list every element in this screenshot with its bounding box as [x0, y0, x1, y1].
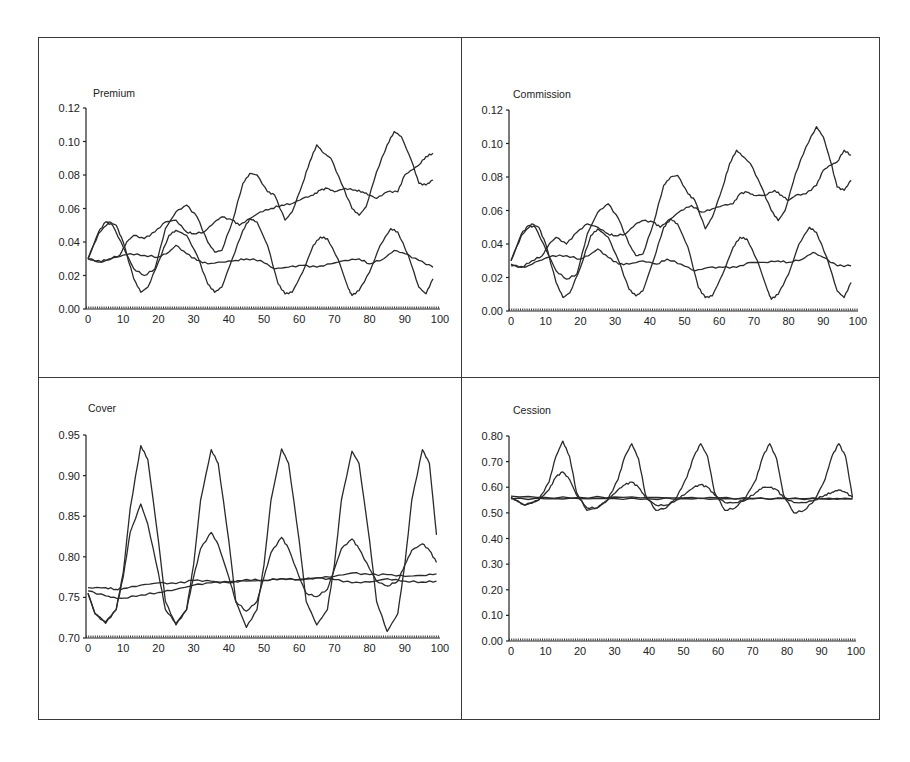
y-tick-label: 0.60 — [482, 481, 503, 493]
series-line-1 — [88, 446, 437, 632]
panel-title: Commission — [513, 88, 571, 100]
x-tick-label: 20 — [574, 315, 586, 327]
series-line-3 — [511, 150, 851, 267]
series-line-4 — [511, 249, 851, 271]
x-tick-label: 100 — [431, 642, 449, 654]
x-tick-label: 80 — [363, 313, 375, 325]
x-tick-label: 50 — [677, 645, 689, 657]
series-line-3 — [88, 153, 433, 262]
series-line-2 — [511, 472, 853, 509]
y-tick-label: 0.10 — [59, 136, 80, 148]
y-tick-label: 0.75 — [59, 591, 80, 603]
panel-premium: Premium 0.000.020.040.060.080.100.120102… — [59, 87, 450, 325]
x-tick-label: 60 — [293, 313, 305, 325]
x-tick-label: 50 — [258, 642, 270, 654]
x-tick-label: 70 — [328, 313, 340, 325]
x-tick-label: 0 — [508, 645, 514, 657]
panel-cover: Cover 0.700.750.800.850.900.950102030405… — [59, 402, 450, 654]
x-tick-label: 70 — [328, 642, 340, 654]
x-tick-label: 10 — [540, 315, 552, 327]
y-tick-label: 0.40 — [482, 533, 503, 545]
chart-grid: Premium 0.000.020.040.060.080.100.120102… — [0, 0, 910, 762]
x-tick-label: 50 — [678, 315, 690, 327]
x-tick-label: 60 — [293, 642, 305, 654]
y-tick-label: 0.70 — [482, 456, 503, 468]
x-tick-label: 90 — [399, 642, 411, 654]
x-tick-label: 10 — [539, 645, 551, 657]
y-tick-label: 0.50 — [482, 507, 503, 519]
y-tick-label: 0.80 — [482, 430, 503, 442]
y-tick-label: 0.00 — [59, 303, 80, 315]
x-tick-label: 20 — [152, 642, 164, 654]
y-tick-label: 0.10 — [482, 609, 503, 621]
x-tick-label: 40 — [644, 315, 656, 327]
y-tick-label: 0.08 — [482, 171, 503, 183]
panel-title: Premium — [93, 87, 135, 99]
x-tick-label: 90 — [815, 645, 827, 657]
x-tick-label: 30 — [187, 313, 199, 325]
x-tick-label: 100 — [431, 313, 449, 325]
y-tick-label: 0.95 — [59, 429, 80, 441]
y-tick-label: 0.06 — [59, 203, 80, 215]
x-tick-label: 90 — [817, 315, 829, 327]
x-tick-label: 70 — [746, 645, 758, 657]
x-tick-label: 80 — [363, 642, 375, 654]
y-tick-label: 0.70 — [59, 632, 80, 644]
y-tick-label: 0.00 — [482, 635, 503, 647]
series-line-2 — [88, 504, 437, 623]
x-tick-label: 60 — [712, 645, 724, 657]
series-line-1 — [88, 132, 433, 276]
y-tick-label: 0.12 — [482, 104, 503, 116]
y-tick-label: 0.02 — [482, 272, 503, 284]
x-tick-label: 90 — [399, 313, 411, 325]
y-tick-label: 0.06 — [482, 205, 503, 217]
x-tick-label: 0 — [85, 642, 91, 654]
series-line-4 — [88, 245, 433, 268]
x-tick-label: 60 — [713, 315, 725, 327]
x-tick-label: 80 — [782, 315, 794, 327]
x-tick-label: 10 — [117, 642, 129, 654]
x-tick-label: 30 — [608, 645, 620, 657]
y-tick-label: 0.08 — [59, 169, 80, 181]
x-tick-label: 20 — [152, 313, 164, 325]
x-tick-label: 20 — [574, 645, 586, 657]
x-tick-label: 100 — [847, 645, 865, 657]
series-line-2 — [511, 219, 851, 299]
panel-title: Cover — [88, 402, 117, 414]
x-tick-label: 100 — [849, 315, 867, 327]
x-tick-label: 40 — [223, 313, 235, 325]
y-tick-label: 0.90 — [59, 470, 80, 482]
y-tick-label: 0.85 — [59, 510, 80, 522]
y-tick-label: 0.04 — [482, 238, 503, 250]
x-tick-label: 0 — [85, 313, 91, 325]
x-tick-label: 30 — [187, 642, 199, 654]
series-line-2 — [88, 219, 433, 296]
x-tick-label: 0 — [508, 315, 514, 327]
y-tick-label: 0.80 — [59, 551, 80, 563]
panel-title: Cession — [513, 404, 551, 416]
y-tick-label: 0.10 — [482, 138, 503, 150]
y-tick-label: 0.02 — [59, 270, 80, 282]
x-tick-label: 40 — [643, 645, 655, 657]
y-tick-label: 0.04 — [59, 236, 80, 248]
panel-commission: Commission 0.000.020.040.060.080.100.120… — [482, 88, 868, 327]
panel-cession: Cession 0.000.100.200.300.400.500.600.70… — [482, 404, 866, 657]
y-tick-label: 0.12 — [59, 102, 80, 114]
y-tick-label: 0.20 — [482, 584, 503, 596]
x-tick-label: 40 — [223, 642, 235, 654]
x-tick-label: 70 — [748, 315, 760, 327]
x-tick-label: 50 — [258, 313, 270, 325]
x-tick-label: 30 — [609, 315, 621, 327]
x-tick-label: 80 — [781, 645, 793, 657]
x-tick-label: 10 — [117, 313, 129, 325]
y-tick-label: 0.30 — [482, 558, 503, 570]
y-tick-label: 0.00 — [482, 305, 503, 317]
